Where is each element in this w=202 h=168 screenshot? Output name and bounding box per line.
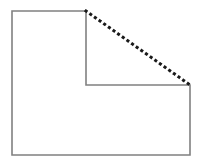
canvas-background <box>0 0 202 168</box>
shape-diagram <box>0 0 202 168</box>
figure-canvas <box>0 0 202 168</box>
